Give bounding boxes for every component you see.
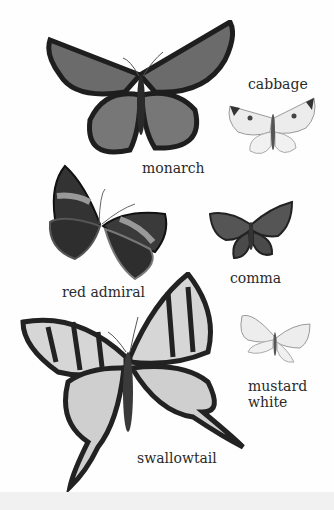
red-admiral-butterfly-image xyxy=(45,164,175,284)
mustard-white-label: mustard white xyxy=(248,378,307,410)
cabbage-label: cabbage xyxy=(248,76,308,92)
cabbage-butterfly-image xyxy=(228,96,316,158)
comma-butterfly-image xyxy=(208,200,294,262)
monarch-butterfly-image xyxy=(45,20,235,160)
swallowtail-label: swallowtail xyxy=(137,450,217,466)
mustard-white-butterfly-image xyxy=(238,310,312,366)
bottom-edge-strip xyxy=(0,492,334,510)
mustard-white-label-line1: mustard xyxy=(248,378,307,394)
mustard-white-label-line2: white xyxy=(248,394,307,410)
butterfly-illustration: monarch cabbage red admiral comma xyxy=(0,0,334,510)
